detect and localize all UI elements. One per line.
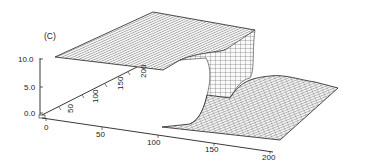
z-tick-label: 5.0	[24, 83, 36, 92]
x-tick-label: 150	[205, 145, 219, 154]
y-tick-label: 100	[91, 89, 100, 103]
y-tick-label: 200	[139, 64, 148, 78]
surface-plot: (C) 10.0 5.0 0.0 50 100 150 200 0 50	[0, 0, 378, 167]
panel-label: (C)	[44, 31, 56, 41]
z-axis: 10.0 5.0 0.0	[18, 55, 43, 118]
y-tick-label: 150	[116, 76, 125, 90]
surface-low-plateau	[162, 76, 338, 140]
y-axis: 50 100 150 200	[42, 64, 148, 115]
x-tick-label: 100	[147, 138, 161, 147]
z-tick-label: 0.0	[24, 109, 36, 118]
x-tick-label: 200	[262, 153, 276, 162]
x-tick-label: 50	[96, 130, 105, 139]
z-tick-label: 10.0	[18, 55, 34, 64]
y-tick-label: 50	[66, 104, 75, 113]
x-tick-label: 0	[44, 123, 49, 132]
